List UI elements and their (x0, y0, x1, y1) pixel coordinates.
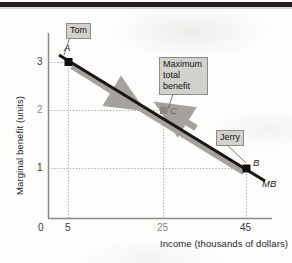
data-point-a (65, 58, 73, 66)
x-tick-label-45: 45 (240, 222, 251, 233)
x-tick-label-5: 5 (65, 222, 71, 233)
chart-figure: Marginal benefit (units) Income (thousan… (0, 0, 292, 263)
callout-maximum-total-benefit: Maximum total benefit (159, 57, 208, 95)
point-label-b: B (253, 157, 259, 168)
y-tick-label-1: 1 (37, 162, 43, 173)
y-axis-title: Marginal benefit (units) (14, 96, 25, 195)
x-axis-title: Income (thousands of dollars) (160, 239, 288, 250)
convergence-arrow-band (72, 66, 244, 172)
y-tick-label-2: 2 (37, 104, 43, 115)
point-label-a: A (64, 42, 70, 53)
callout-jerry: Jerry (216, 130, 244, 146)
point-label-c: C (170, 105, 177, 116)
curve-label-mb: MB (262, 178, 277, 189)
data-point-b (243, 165, 251, 173)
y-tick-label-3: 3 (37, 56, 43, 67)
y-axis-title-wrap: Marginal benefit (units) (2, 30, 16, 200)
x-tick-label-25: 25 (157, 222, 168, 233)
callout-tom: Tom (66, 23, 91, 39)
x-tick-label-0: 0 (38, 222, 44, 233)
data-point-c (160, 107, 168, 115)
